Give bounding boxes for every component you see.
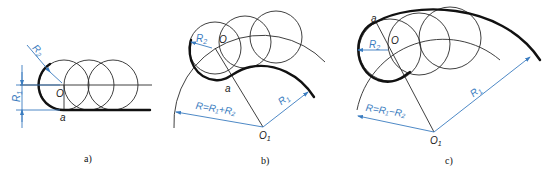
cycloid-construction-diagram: R2 R1 O a a) R2 O a R1 R=R₁+R₂ O1 b)	[0, 0, 546, 173]
label-center-o: O	[219, 34, 227, 45]
label-r1: R1	[468, 84, 484, 100]
label-point-a: a	[225, 83, 231, 94]
label-radius-formula: R=R₁+R₂	[195, 100, 237, 117]
label-big-center: O1	[430, 135, 442, 147]
label-r1: R1	[276, 92, 292, 108]
caption-a: a)	[84, 153, 92, 165]
caption-b: b)	[261, 155, 269, 167]
caption-c: c)	[445, 155, 453, 167]
label-r2: R2	[196, 33, 207, 45]
label-big-center: O1	[259, 130, 271, 142]
panel-b: R2 O a R1 R=R₁+R₂ O1 b)	[174, 11, 325, 167]
label-point-a: a	[371, 13, 377, 24]
label-r2: R2	[369, 39, 380, 51]
panel-c: R2 O a R1 R=R₁−R₂ O1 c)	[357, 7, 540, 167]
label-radius-formula: R=R₁−R₂	[365, 102, 407, 119]
label-r2: R2	[30, 42, 46, 58]
label-center-o: O	[391, 35, 399, 46]
label-point-a: a	[60, 112, 66, 123]
panel-a: R2 R1 O a a)	[11, 42, 152, 165]
label-r1: R1	[11, 91, 23, 102]
label-center-o: O	[56, 88, 64, 99]
